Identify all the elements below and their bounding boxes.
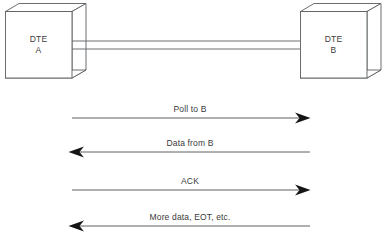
message-label-4: More data, EOT, etc. (150, 212, 231, 222)
message-label-2: Data from B (167, 138, 214, 148)
message-arrow-1[interactable] (72, 113, 311, 124)
dte-b-right-face (367, 4, 381, 79)
node-label-dte-a: DTE A (5, 34, 72, 56)
dte-a-id: A (5, 45, 72, 56)
diagram-canvas: DTE A DTE B Poll to B Data from B ACK Mo… (0, 0, 386, 246)
message-arrow-2[interactable] (69, 147, 311, 158)
message-label-1: Poll to B (173, 104, 206, 114)
dte-b-id: B (300, 45, 367, 56)
dte-a-name: DTE (5, 34, 72, 45)
message-label-3: ACK (181, 176, 199, 186)
dte-b-name: DTE (300, 34, 367, 45)
node-label-dte-b: DTE B (300, 34, 367, 56)
link-double-line[interactable] (72, 41, 301, 49)
message-arrow-4[interactable] (69, 221, 311, 232)
message-arrow-3[interactable] (72, 185, 311, 196)
